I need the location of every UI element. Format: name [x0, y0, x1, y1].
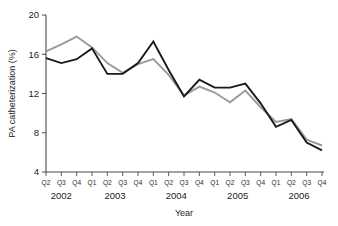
x-axis: Q2Q3Q4Q1Q2Q3Q4Q1Q2Q3Q4Q1Q2Q3Q4Q1Q2Q3Q420…: [42, 172, 327, 201]
x-quarter-label: Q1: [210, 179, 219, 187]
y-tick-label: 8: [34, 127, 39, 138]
y-tick-label: 4: [34, 166, 39, 177]
x-quarter-label: Q4: [134, 179, 143, 187]
x-year-label: 2006: [288, 190, 309, 201]
x-year-label: 2003: [104, 190, 125, 201]
y-axis: 48121620: [28, 9, 46, 177]
x-quarter-label: Q2: [42, 179, 51, 187]
x-quarter-label: Q2: [164, 179, 173, 187]
x-quarter-label: Q2: [103, 179, 112, 187]
series-layer: [46, 37, 322, 151]
series-gray: [46, 37, 322, 146]
x-year-label: 2004: [166, 190, 187, 201]
y-tick-label: 20: [28, 9, 39, 20]
x-quarter-label: Q1: [272, 179, 281, 187]
x-quarter-label: Q2: [226, 179, 235, 187]
x-year-label: 2002: [51, 190, 72, 201]
x-quarter-label: Q4: [72, 179, 81, 187]
x-quarter-label: Q4: [318, 179, 327, 187]
x-quarter-label: Q2: [287, 179, 296, 187]
x-quarter-label: Q1: [88, 179, 97, 187]
x-quarter-label: Q3: [241, 179, 250, 187]
y-tick-label: 16: [28, 49, 39, 60]
series-black: [46, 41, 322, 150]
x-quarter-label: Q3: [302, 179, 311, 187]
chart-container: 48121620 Q2Q3Q4Q1Q2Q3Q4Q1Q2Q3Q4Q1Q2Q3Q4Q…: [0, 0, 338, 226]
x-year-label: 2005: [227, 190, 248, 201]
x-quarter-label: Q4: [195, 179, 204, 187]
x-quarter-label: Q3: [180, 179, 189, 187]
x-quarter-label: Q1: [149, 179, 158, 187]
y-axis-title: PA catheterization (%): [7, 49, 17, 137]
x-quarter-label: Q3: [57, 179, 66, 187]
x-axis-title: Year: [175, 208, 193, 218]
line-chart: 48121620 Q2Q3Q4Q1Q2Q3Q4Q1Q2Q3Q4Q1Q2Q3Q4Q…: [0, 0, 338, 226]
x-quarter-label: Q4: [256, 179, 265, 187]
y-tick-label: 12: [28, 88, 39, 99]
x-quarter-label: Q3: [118, 179, 127, 187]
